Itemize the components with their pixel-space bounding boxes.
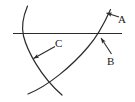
label-b: B [107,56,114,67]
figure-canvas [0,0,135,102]
geometry-figure: A B C [0,0,135,102]
left-arc [23,6,62,95]
large-arc [28,10,111,95]
label-c: C [55,38,62,49]
arrow-b [101,38,112,54]
arrow-c [34,47,56,59]
label-a: A [118,14,126,25]
